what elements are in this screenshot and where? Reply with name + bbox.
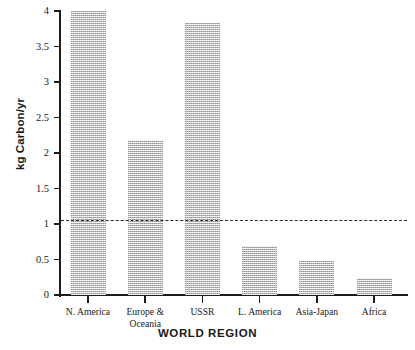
bar-chart: kg Carbon/yr 00.511.522.533.54 N. Americ… <box>0 0 415 350</box>
x-axis-tick-mark <box>373 296 375 303</box>
y-axis-tick-label: 0.5 <box>36 254 49 265</box>
y-axis-tick-mark <box>54 188 61 190</box>
y-axis-tick-mark <box>54 10 61 12</box>
y-axis-tick-mark <box>54 294 61 296</box>
y-axis-tick-label: 2 <box>44 147 49 158</box>
y-axis-tick-mark <box>54 152 61 154</box>
y-axis-tick-label: 3.5 <box>36 41 49 52</box>
x-axis-tick-mark <box>202 296 204 303</box>
reference-line <box>61 220 407 221</box>
x-axis-tick-label: Asia-Japan <box>288 306 345 318</box>
y-axis-tick-mark <box>54 259 61 261</box>
bar <box>299 261 334 295</box>
x-axis-tick-label: Europe & Oceania <box>117 306 174 329</box>
x-axis-tick-mark <box>316 296 318 303</box>
y-axis-title: kg Carbon/yr <box>14 74 26 194</box>
y-axis-tick-mark <box>54 117 61 119</box>
bar <box>71 11 106 295</box>
y-axis-tick-label: 0 <box>44 289 49 300</box>
bar <box>185 23 220 295</box>
x-axis-tick-label: USSR <box>174 306 231 318</box>
bar <box>128 140 163 295</box>
y-axis-tick-mark <box>54 81 61 83</box>
y-axis-tick-mark <box>54 46 61 48</box>
x-axis-tick-label: N. America <box>59 306 116 318</box>
x-axis-tick-mark <box>259 296 261 303</box>
x-axis-tick-mark <box>144 296 146 303</box>
x-axis-title: WORLD REGION <box>0 327 415 339</box>
bar <box>357 278 392 295</box>
x-axis-tick-label: L. America <box>231 306 288 318</box>
y-axis-tick-mark <box>54 223 61 225</box>
y-axis-tick-label: 3 <box>44 76 49 87</box>
y-axis-tick-label: 1 <box>44 218 49 229</box>
x-axis-tick-label: Africa <box>345 306 402 318</box>
y-axis-tick-label: 4 <box>44 5 49 16</box>
y-axis-tick-label: 1.5 <box>36 183 49 194</box>
y-axis-tick-label: 2.5 <box>36 112 49 123</box>
bar <box>242 246 277 295</box>
x-axis-tick-mark <box>87 296 89 303</box>
